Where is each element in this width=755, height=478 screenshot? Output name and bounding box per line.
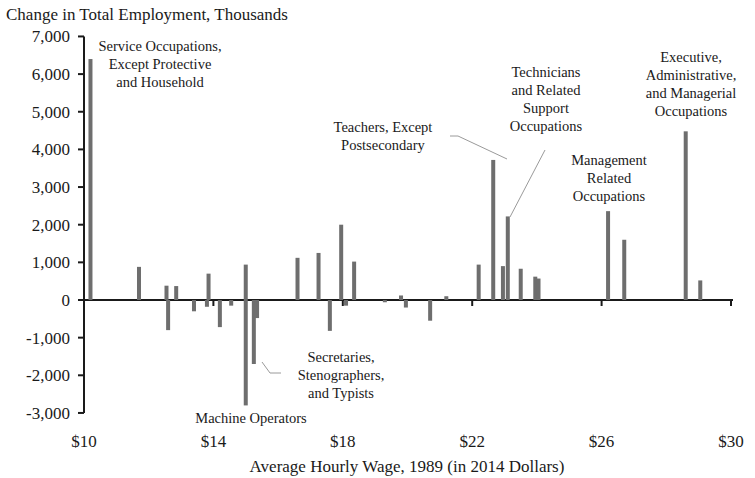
bar bbox=[444, 296, 448, 300]
y-tick-label: 3,000 bbox=[32, 178, 70, 197]
bar bbox=[698, 280, 702, 300]
bars bbox=[88, 59, 702, 405]
y-tick-label: -3,000 bbox=[26, 404, 70, 423]
y-axis: 7,0006,0005,0004,0003,0002,0001,0000-1,0… bbox=[26, 27, 84, 423]
bar bbox=[428, 300, 432, 321]
annotation-executive: Occupations bbox=[655, 103, 728, 119]
bar bbox=[244, 300, 248, 405]
bar bbox=[501, 266, 505, 300]
bar bbox=[537, 279, 541, 300]
annotation-secretaries: Secretaries, bbox=[307, 349, 374, 365]
annotation-teachers: Postsecondary bbox=[341, 137, 426, 153]
annotation-technicians: Occupations bbox=[510, 118, 583, 134]
annotation-technicians: Support bbox=[523, 100, 569, 116]
x-tick-label: $26 bbox=[589, 432, 615, 451]
bar bbox=[296, 258, 300, 300]
y-tick-label: 7,000 bbox=[32, 27, 70, 46]
bar bbox=[339, 225, 343, 300]
bar bbox=[244, 265, 248, 300]
x-tick-label: $18 bbox=[330, 432, 356, 451]
y-tick-label: 1,000 bbox=[32, 253, 70, 272]
bar bbox=[399, 295, 403, 300]
bar bbox=[383, 300, 387, 302]
bar bbox=[229, 300, 233, 306]
y-tick-label: -1,000 bbox=[26, 329, 70, 348]
x-tick-label: $10 bbox=[71, 432, 97, 451]
bar bbox=[137, 267, 141, 300]
bar bbox=[622, 240, 626, 300]
x-axis-title: Average Hourly Wage, 1989 (in 2014 Dolla… bbox=[250, 457, 565, 476]
bar bbox=[506, 216, 510, 300]
y-tick-label: 6,000 bbox=[32, 65, 70, 84]
bar bbox=[205, 300, 209, 307]
annotation-technicians: Technicians bbox=[511, 64, 580, 80]
bar bbox=[404, 300, 408, 308]
annotation-executive: Executive, bbox=[660, 49, 722, 65]
bar bbox=[344, 300, 348, 306]
x-tick-label: $14 bbox=[201, 432, 227, 451]
x-tick-label: $30 bbox=[718, 432, 744, 451]
annotation-service-occupations: and Household bbox=[116, 74, 204, 90]
y-tick-label: -2,000 bbox=[26, 366, 70, 385]
annotation-executive: Administrative, bbox=[646, 67, 737, 83]
annotation-service-occupations: Except Protective bbox=[109, 56, 212, 72]
annotation-executive: and Managerial bbox=[646, 85, 737, 101]
bar bbox=[606, 211, 610, 300]
bar bbox=[491, 160, 495, 300]
annotation-teachers: Teachers, Except bbox=[334, 119, 433, 135]
bar bbox=[519, 269, 523, 300]
bar bbox=[207, 274, 211, 300]
annotations: Service Occupations,Except Protectiveand… bbox=[98, 38, 736, 426]
x-tick-label: $22 bbox=[459, 432, 485, 451]
bar bbox=[328, 300, 332, 331]
annotation-service-occupations: Service Occupations, bbox=[98, 38, 221, 54]
bar bbox=[477, 265, 481, 300]
annotation-secretaries: and Typists bbox=[308, 385, 374, 401]
bar bbox=[174, 286, 178, 300]
annotation-management: Related bbox=[587, 170, 632, 186]
bar bbox=[317, 253, 321, 300]
y-tick-label: 4,000 bbox=[32, 140, 70, 159]
annotation-management: Occupations bbox=[573, 188, 646, 204]
bar bbox=[255, 300, 259, 318]
annotation-secretaries: Stenographers, bbox=[298, 367, 385, 383]
bar bbox=[684, 131, 688, 300]
x-axis: $10$14$18$22$26$30 bbox=[71, 300, 744, 451]
bar bbox=[166, 300, 170, 330]
bar bbox=[192, 300, 196, 311]
annotation-technicians: and Related bbox=[512, 82, 582, 98]
y-tick-label: 2,000 bbox=[32, 216, 70, 235]
bar bbox=[218, 300, 222, 327]
bar bbox=[352, 262, 356, 300]
y-tick-label: 5,000 bbox=[32, 103, 70, 122]
bar bbox=[88, 59, 92, 300]
employment-change-chart: Change in Total Employment, Thousands 7,… bbox=[0, 0, 755, 478]
bar bbox=[164, 286, 168, 300]
y-axis-title: Change in Total Employment, Thousands bbox=[6, 5, 288, 24]
y-tick-label: 0 bbox=[62, 291, 71, 310]
annotation-machine-operators: Machine Operators bbox=[195, 410, 307, 426]
annotation-management: Management bbox=[571, 152, 647, 168]
